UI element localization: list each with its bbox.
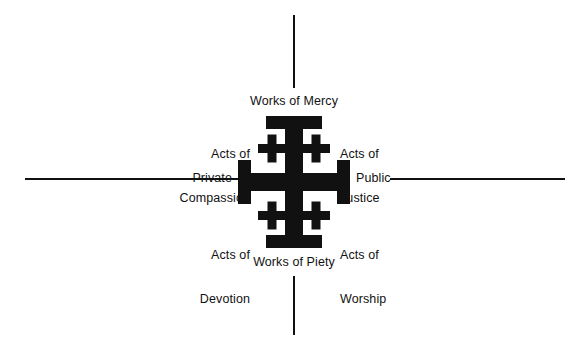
- axis-line-vertical-top: [293, 15, 295, 88]
- quadrant-label-acts-of-compassion: Acts of Compassion: [120, 118, 250, 234]
- diagram-canvas: Works of Mercy Works of Piety Private Pu…: [0, 0, 587, 344]
- quadrant-label-line1: Acts of: [120, 147, 250, 162]
- quadrant-label-line1: Acts of: [110, 248, 250, 263]
- axis-line-vertical-bottom: [293, 276, 295, 335]
- quadrant-label-line1: Acts of: [340, 248, 480, 263]
- jerusalem-cross-icon: [236, 116, 352, 248]
- axis-label-works-of-mercy: Works of Mercy: [194, 94, 394, 109]
- quadrant-label-acts-of-justice: Acts of Justice: [340, 118, 470, 234]
- quadrant-label-line2: Worship: [340, 292, 480, 307]
- quadrant-label-line2: Devotion: [110, 292, 250, 307]
- quadrant-label-acts-of-devotion: Acts of Devotion: [110, 219, 250, 335]
- quadrant-label-line2: Compassion: [120, 191, 250, 206]
- quadrant-label-acts-of-worship: Acts of Worship: [340, 219, 480, 335]
- jerusalem-cross-symbol: [236, 116, 352, 248]
- quadrant-label-line2: Justice: [340, 191, 470, 206]
- quadrant-label-line1: Acts of: [340, 147, 470, 162]
